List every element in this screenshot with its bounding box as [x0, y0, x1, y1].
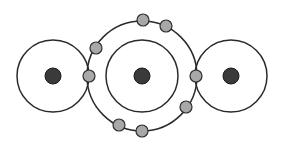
left-atom-nucleus: [45, 68, 61, 84]
electron: [190, 70, 202, 82]
electron: [160, 20, 172, 32]
center-atom-nucleus: [134, 68, 150, 84]
nuclei: [45, 68, 239, 84]
electron: [180, 101, 192, 113]
electron: [83, 70, 95, 82]
electron: [136, 125, 148, 137]
electron: [90, 42, 102, 54]
electron: [113, 119, 125, 131]
electron: [137, 14, 149, 26]
bohr-diagram: [0, 0, 281, 148]
right-atom-nucleus: [223, 68, 239, 84]
